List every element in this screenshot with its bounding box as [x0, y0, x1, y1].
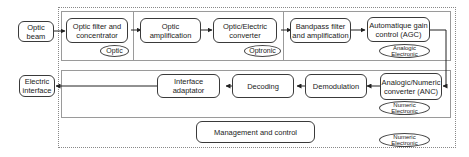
anc-node: Analogic/Numeric converter (ANC) [380, 73, 442, 100]
decoding-label: Decoding [247, 82, 279, 91]
management-control-node: Management and control [196, 121, 315, 143]
anc-label: Analogic/Numeric converter (ANC) [381, 78, 441, 96]
interface-adaptator-node: Interface adaptator [157, 74, 220, 98]
optic-filter-label: Optic filter and concentrator [67, 22, 127, 40]
tag-numeric-electronic-outer: Numeric Electronic [379, 133, 430, 147]
bandpass-filter-node: Bandpass filter and amplification [290, 18, 351, 43]
tag-optronic: Optronic [244, 45, 281, 57]
optic-beam-node: Optic beam [18, 21, 54, 42]
interface-adaptator-label: Interface adaptator [158, 77, 219, 95]
management-control-label: Management and control [214, 128, 297, 137]
demodulation-label: Demodulation [313, 82, 359, 91]
tag-analogic-electronic: Analogic Electronic [379, 44, 430, 58]
electric-interface-node: Electric interface [19, 75, 55, 97]
agc-label: Automatique gain control (AGC) [368, 21, 429, 39]
optic-filter-node: Optic filter and concentrator [66, 18, 128, 43]
tag-optic: Optic [100, 45, 129, 57]
optic-electric-converter-node: Optic/Electric converter [213, 18, 277, 43]
agc-node: Automatique gain control (AGC) [367, 17, 430, 42]
demodulation-node: Demodulation [305, 74, 367, 98]
bandpass-filter-label: Bandpass filter and amplification [291, 22, 350, 40]
optic-amplification-node: Optic amplification [140, 18, 201, 43]
electric-interface-label: Electric interface [20, 77, 54, 95]
decoding-node: Decoding [232, 74, 294, 98]
optic-electric-converter-label: Optic/Electric converter [214, 22, 276, 40]
tag-numeric-electronic-mid: Numeric Electronic [379, 101, 430, 115]
optic-amplification-label: Optic amplification [141, 22, 200, 40]
optic-beam-label: Optic beam [19, 23, 53, 41]
